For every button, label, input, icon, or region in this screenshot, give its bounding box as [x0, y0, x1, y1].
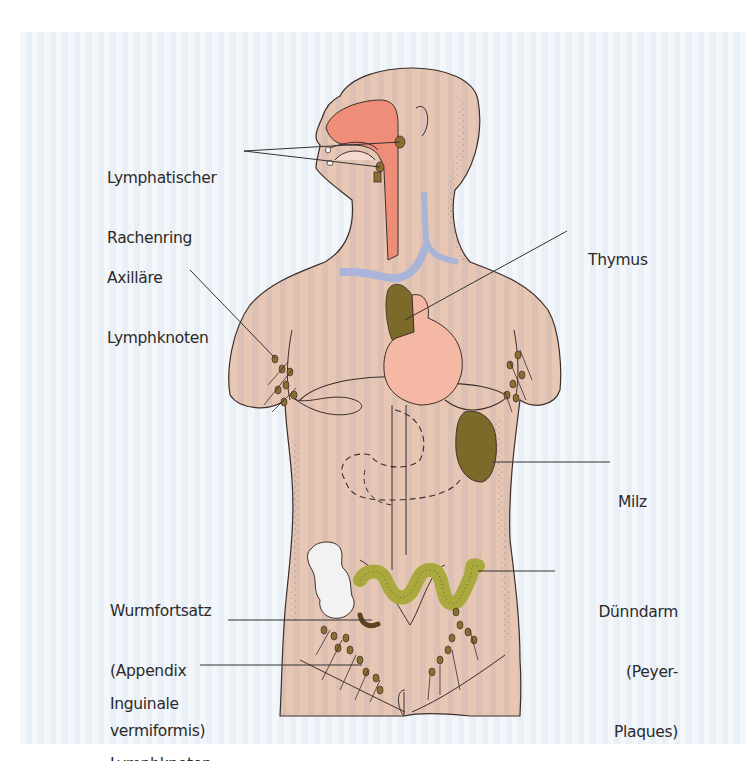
label-thymus-line1: Thymus — [588, 250, 648, 270]
label-duenndarm-line2: (Peyer- — [598, 662, 678, 682]
page: Lymphatischer Rachenring Axilläre Lymphk… — [0, 0, 756, 761]
label-milz-line1: Milz — [618, 492, 647, 512]
label-rachenring-line1: Lymphatischer — [107, 168, 216, 188]
label-milz: Milz — [618, 452, 647, 552]
label-axillaere-lymphknoten: Axilläre Lymphknoten — [107, 228, 209, 388]
label-inguinal-line1: Inguinale — [110, 694, 212, 714]
label-duenndarm-line1: Dünndarm — [598, 602, 678, 622]
label-axillaer-line1: Axilläre — [107, 268, 209, 288]
label-duenndarm-line3: Plaques) — [598, 722, 678, 742]
label-inguinale-lymphknoten: Inguinale Lymphknoten — [110, 654, 212, 761]
label-inguinal-line2: Lymphknoten — [110, 754, 212, 761]
label-wurmfortsatz-line1: Wurmfortsatz — [110, 601, 211, 621]
label-axillaer-line2: Lymphknoten — [107, 328, 209, 348]
label-thymus: Thymus — [588, 210, 648, 310]
label-duenndarm: Dünndarm (Peyer- Plaques) — [598, 562, 678, 761]
